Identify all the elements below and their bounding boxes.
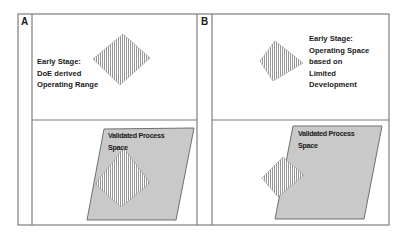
panel-b-operating-space-diamond: [260, 41, 303, 81]
caption-line: Operating Range: [37, 79, 98, 91]
caption-line: based on: [309, 56, 369, 68]
caption-line: Early Stage:: [309, 33, 369, 45]
panel-a-validated-process-space-label: Validated Process Space: [108, 130, 164, 153]
region-label-line: Space: [298, 140, 354, 152]
panel-b-validated-process-space-label: Validated Process Space: [298, 128, 354, 151]
caption-line: DoE derived: [37, 68, 98, 80]
panel-b-caption: Early Stage: Operating Space based on Li…: [309, 33, 369, 91]
caption-line: Operating Space: [309, 45, 369, 57]
panel-b-letter: B: [201, 16, 208, 27]
panel-a-letter: A: [21, 16, 28, 27]
panel-a-caption: Early Stage: DoE derived Operating Range: [37, 56, 98, 91]
region-label-line: Space: [108, 142, 164, 154]
caption-line: Limited: [309, 68, 369, 80]
panel-a-operating-range-diamond: [93, 34, 150, 85]
caption-line: Development: [309, 79, 369, 91]
region-label-line: Validated Process: [298, 128, 354, 140]
caption-line: Early Stage:: [37, 56, 98, 68]
region-label-line: Validated Process: [108, 130, 164, 142]
